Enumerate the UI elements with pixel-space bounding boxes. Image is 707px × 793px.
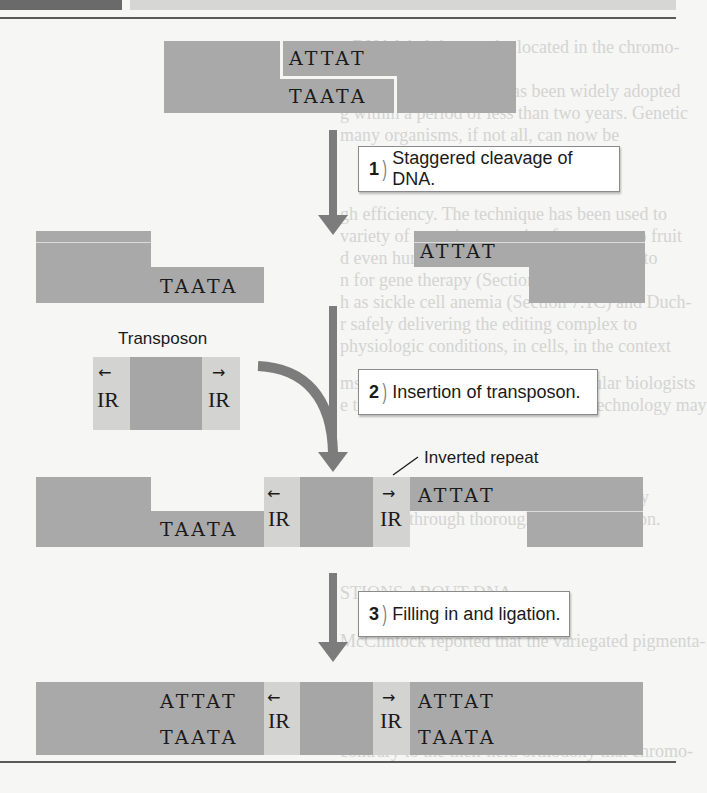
sequence-top: ATTAT xyxy=(418,484,496,506)
sequence-top: ATTAT xyxy=(289,47,367,69)
transposon-core xyxy=(300,477,373,547)
step-number: 2 xyxy=(369,382,379,403)
cut-line xyxy=(394,76,397,113)
leader-line xyxy=(390,455,420,477)
transposon-label: Transposon xyxy=(118,329,207,349)
page-header-bar xyxy=(130,0,676,10)
left-arrow-icon: ← xyxy=(267,486,280,502)
right-arrow-icon: → xyxy=(382,690,395,706)
sequence-bottom: TAATA xyxy=(418,726,496,748)
ir-label: IR xyxy=(380,506,402,532)
right-arrow-icon: → xyxy=(212,365,225,381)
step-text: Staggered cleavage of DNA. xyxy=(392,148,619,190)
ghost-line: r safely delivering the editing complex … xyxy=(340,313,637,335)
step-text: Filling in and ligation. xyxy=(392,604,560,625)
cut-line xyxy=(280,41,283,79)
bracket-icon: ) xyxy=(382,156,386,182)
dna-right-fragment xyxy=(527,477,643,547)
curved-insertion-arrow-icon xyxy=(250,358,342,458)
strand-separator xyxy=(527,511,643,512)
transposon-core xyxy=(300,682,373,755)
process-arrow-shaft xyxy=(329,573,337,645)
step-number: 3 xyxy=(369,604,379,625)
inverted-repeat-label: Inverted repeat xyxy=(424,448,538,468)
page-header-dark-block xyxy=(0,0,122,10)
down-arrow-icon xyxy=(318,215,348,235)
step-3-callout: 3 ) Filling in and ligation. xyxy=(358,591,570,637)
sequence-bottom: TAATA xyxy=(160,726,238,748)
left-arrow-icon: ← xyxy=(267,690,280,706)
transposon-core xyxy=(130,357,202,430)
cut-line xyxy=(280,76,397,79)
ir-label: IR xyxy=(268,708,290,734)
ghost-line: physiologic conditions, in cells, in the… xyxy=(340,335,671,357)
step-text: Insertion of transposon. xyxy=(392,382,580,403)
top-rule xyxy=(0,17,676,19)
sequence-bottom: TAATA xyxy=(160,275,238,297)
ir-label: IR xyxy=(268,506,290,532)
ir-label: IR xyxy=(97,387,119,413)
sequence-bottom: TAATA xyxy=(160,518,238,540)
bracket-icon: ) xyxy=(382,379,386,405)
right-arrow-icon: → xyxy=(382,486,395,502)
sequence-bottom: TAATA xyxy=(289,85,367,107)
process-arrow-shaft xyxy=(329,130,337,218)
ir-label: IR xyxy=(208,387,230,413)
bracket-icon: ) xyxy=(382,601,386,627)
step-1-callout: 1 ) Staggered cleavage of DNA. xyxy=(358,146,620,192)
left-arrow-icon: ← xyxy=(98,365,111,381)
sequence-top: ATTAT xyxy=(418,690,496,712)
dna-left-fragment xyxy=(36,477,151,547)
down-arrow-icon xyxy=(318,642,348,662)
sequence-top: ATTAT xyxy=(420,240,498,262)
strand-separator xyxy=(36,242,151,243)
step-number: 1 xyxy=(369,159,379,180)
sequence-top: ATTAT xyxy=(160,690,238,712)
step-2-callout: 2 ) Insertion of transposon. xyxy=(358,369,598,415)
ir-label: IR xyxy=(380,708,402,734)
ghost-line: gh efficiency. The technique has been us… xyxy=(340,203,667,225)
ghost-line: many organisms, if not all, can now be xyxy=(340,124,619,146)
